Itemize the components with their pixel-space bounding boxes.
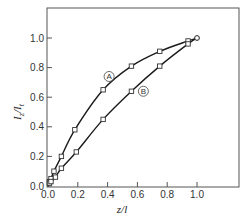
data-point-marker xyxy=(52,169,56,173)
data-point-marker xyxy=(59,154,63,158)
y-tick-label: 0.4 xyxy=(30,121,44,132)
data-point-marker xyxy=(129,89,133,93)
data-point-marker xyxy=(59,166,63,170)
x-tick-label: 0.4 xyxy=(101,189,115,200)
series-A xyxy=(47,36,199,186)
y-tick-label: 1.0 xyxy=(30,33,44,44)
curve-label-A: A xyxy=(104,71,114,81)
svg-text:A: A xyxy=(106,72,112,81)
plot-frame xyxy=(47,8,239,187)
data-point-marker xyxy=(129,64,133,68)
data-point-marker xyxy=(74,150,78,154)
svg-text:B: B xyxy=(141,87,146,96)
data-point-marker xyxy=(49,179,53,183)
y-tick-label: 0.8 xyxy=(30,62,44,73)
y-tick-label: 0.2 xyxy=(30,151,44,162)
data-point-marker xyxy=(195,36,200,41)
chart: 0.00.20.40.60.81.0 0.00.20.40.60.81.0 AB… xyxy=(0,0,251,223)
y-axis-label: Iz/It xyxy=(11,103,26,121)
data-series xyxy=(47,36,199,186)
x-tick-label: 0.6 xyxy=(130,189,144,200)
x-tick-label: 0.2 xyxy=(71,189,85,200)
data-point-marker xyxy=(101,88,105,92)
y-tick-label: 0.6 xyxy=(30,92,44,103)
y-axis-ticks: 0.00.20.40.60.81.0 xyxy=(30,33,52,192)
data-point-marker xyxy=(53,175,57,179)
x-tick-label: 1.0 xyxy=(190,189,204,200)
data-point-marker xyxy=(158,64,162,68)
x-tick-label: 0.8 xyxy=(160,189,174,200)
curve-label-B: B xyxy=(138,86,148,96)
x-tick-label: 0.0 xyxy=(41,189,55,200)
data-point-marker xyxy=(101,117,105,121)
data-point-marker xyxy=(73,128,77,132)
x-axis-label: z/l xyxy=(116,203,127,215)
x-axis-ticks: 0.00.20.40.60.81.0 xyxy=(41,182,204,200)
curve-labels: AB xyxy=(104,71,148,96)
data-point-marker xyxy=(186,42,190,46)
series-B xyxy=(47,36,199,186)
data-point-marker xyxy=(158,49,162,53)
